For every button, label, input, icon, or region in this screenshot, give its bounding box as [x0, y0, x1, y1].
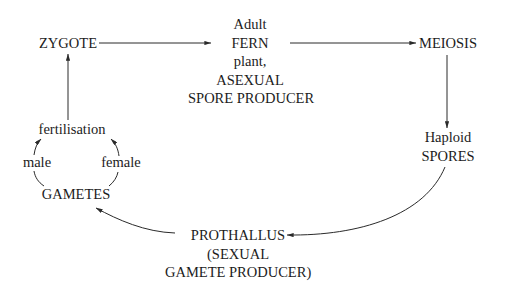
spores-line-1: Haploid	[417, 128, 479, 147]
arrow-prothallus-to-gametes	[96, 208, 175, 233]
node-meiosis: MEIOSIS	[416, 34, 480, 53]
prothallus-line-2: (SEXUAL	[165, 245, 311, 264]
arc-gametes-to-female-lower	[109, 172, 118, 186]
meiosis-label: MEIOSIS	[416, 34, 480, 53]
fern-life-cycle-diagram: ZYGOTE Adult FERN plant, ASEXUAL SPORE P…	[0, 0, 506, 293]
node-male: male	[20, 153, 54, 172]
node-adult-fern: Adult FERN plant, ASEXUAL SPORE PRODUCER	[188, 15, 312, 108]
node-prothallus: PROTHALLUS (SEXUAL GAMETE PRODUCER)	[165, 226, 311, 282]
spores-line-2: SPORES	[417, 147, 479, 166]
adult-fern-line-4: ASEXUAL	[188, 71, 312, 90]
adult-fern-line-5: SPORE PRODUCER	[188, 89, 312, 108]
node-zygote: ZYGOTE	[36, 34, 100, 53]
adult-fern-line-3: plant,	[188, 52, 312, 71]
adult-fern-line-2: FERN	[188, 34, 312, 53]
node-female: female	[98, 153, 144, 172]
prothallus-line-3: GAMETE PRODUCER)	[165, 263, 311, 282]
arc-gametes-to-male-lower	[34, 171, 44, 186]
node-fertilisation: fertilisation	[34, 120, 110, 139]
male-label: male	[20, 153, 54, 172]
arrow-spores-to-prothallus	[287, 167, 445, 235]
adult-fern-line-1: Adult	[188, 15, 312, 34]
node-gametes: GAMETES	[40, 185, 112, 204]
fertilisation-label: fertilisation	[34, 120, 110, 139]
zygote-label: ZYGOTE	[36, 34, 100, 53]
prothallus-line-1: PROTHALLUS	[165, 226, 311, 245]
female-label: female	[98, 153, 144, 172]
node-haploid-spores: Haploid SPORES	[417, 128, 479, 165]
gametes-label: GAMETES	[40, 185, 112, 204]
